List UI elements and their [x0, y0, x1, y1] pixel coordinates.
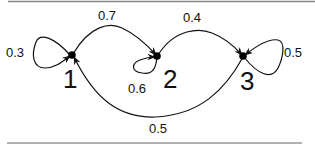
edge-3-to-1 [74, 57, 243, 117]
node-2-dot [153, 52, 161, 60]
markov-chain-diagram: 1 2 3 0.3 0.7 0.6 0.4 0.5 0.5 [0, 0, 315, 152]
node-3-dot [239, 52, 247, 60]
edge-1-to-2 [73, 25, 156, 55]
edge-label-1-2: 0.7 [98, 8, 116, 23]
edge-label-3-1: 0.5 [149, 121, 167, 136]
edge-label-1-1: 0.3 [6, 45, 24, 60]
edge-2-to-3 [158, 30, 242, 55]
edge-label-2-2: 0.6 [128, 81, 146, 96]
node-3-label: 3 [240, 66, 254, 96]
edge-label-3-3: 0.5 [284, 45, 302, 60]
node-2-label: 2 [163, 64, 177, 94]
node-1-label: 1 [63, 64, 77, 94]
edge-2-to-2 [134, 57, 158, 73]
edge-label-2-3: 0.4 [183, 10, 201, 25]
node-1-dot [68, 51, 76, 59]
